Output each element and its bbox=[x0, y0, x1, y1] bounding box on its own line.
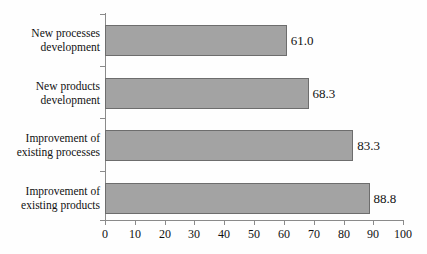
x-tick-label-100: 100 bbox=[383, 227, 423, 241]
x-axis-tick bbox=[403, 221, 404, 225]
category-label-3: Improvement of existing products bbox=[0, 185, 100, 212]
horizontal-bar-chart: New processes development New products d… bbox=[0, 0, 427, 254]
category-label-2: Improvement of existing processes bbox=[0, 132, 100, 159]
y-axis-tick bbox=[100, 118, 105, 119]
x-axis-tick bbox=[135, 221, 136, 225]
x-axis-tick bbox=[194, 221, 195, 225]
y-axis-tick bbox=[100, 171, 105, 172]
category-label-0: New processes development bbox=[0, 27, 100, 54]
x-axis-tick bbox=[105, 221, 106, 225]
x-axis-tick bbox=[224, 221, 225, 225]
category-label-0-line-1: New processes bbox=[31, 27, 100, 39]
bar-1 bbox=[105, 78, 309, 109]
category-label-3-line-1: Improvement of bbox=[26, 185, 100, 197]
category-label-1: New products development bbox=[0, 80, 100, 107]
bar-0 bbox=[105, 25, 287, 56]
x-axis-tick bbox=[165, 221, 166, 225]
category-label-2-line-2: existing processes bbox=[17, 146, 100, 158]
category-label-1-line-1: New products bbox=[36, 80, 100, 92]
y-axis-tick bbox=[100, 66, 105, 67]
category-label-3-line-2: existing products bbox=[21, 199, 100, 211]
y-axis-tick bbox=[100, 14, 105, 15]
bar-3 bbox=[105, 183, 370, 214]
category-label-2-line-1: Improvement of bbox=[26, 132, 100, 144]
x-axis-tick bbox=[284, 221, 285, 225]
category-label-0-line-2: development bbox=[41, 41, 100, 53]
bar-value-1: 68.3 bbox=[313, 86, 336, 101]
category-label-1-line-2: development bbox=[41, 94, 100, 106]
bar-value-2: 83.3 bbox=[357, 138, 380, 153]
x-axis-tick bbox=[254, 221, 255, 225]
bar-value-0: 61.0 bbox=[291, 33, 314, 48]
x-axis-tick bbox=[344, 221, 345, 225]
x-axis-tick bbox=[373, 221, 374, 225]
bar-value-3: 88.8 bbox=[374, 191, 397, 206]
bar-2 bbox=[105, 130, 353, 161]
x-axis-tick bbox=[314, 221, 315, 225]
